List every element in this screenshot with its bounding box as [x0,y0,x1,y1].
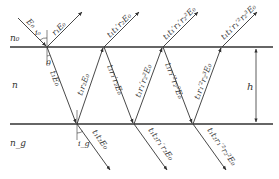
substrate-angle-label: i_g [78,139,90,148]
refraction-angle-label: θ [46,59,51,68]
incidence-angle-arc [40,38,47,40]
transmitted-label-1: t₁t₂E₀ [90,128,110,152]
thickness-label: h [247,81,253,92]
incidence-angle-label: i₀ [35,28,42,37]
medium-label-top: n₀ [10,33,20,43]
internal-ray-1 [47,47,76,123]
internal-label-5: t₁r₁′²r₂²E₀ [163,61,185,100]
internal-label-4: t₁r₁′r₂²E₀ [133,62,154,98]
transmitted-label-2: t₁t₂r₁′r₂E₀ [146,126,175,163]
internal-label-2: t₁r₂E₀ [75,72,91,97]
reflected-label-4: t₁t₁′r₁′²r₂³E₀ [219,2,258,41]
reflected-label-2: t₁t₁′r₂E₀ [105,11,134,40]
internal-label-1: t₁E₀ [48,69,62,87]
internal-label-3: t₁r₁′r₂E₀ [105,63,125,96]
internal-label-6: t₁r₁′²r₂³E₀ [192,61,214,100]
refraction-angle-arc [47,55,50,56]
transmitted-label-3: t₁t₂r₁′²r₂²E₀ [205,126,238,168]
thin-film-diagram: h n₀ n n_g i₀ θ i_g E₀ r₁E₀ t₁t₁′r₂E₀ t₁… [0,0,279,179]
medium-label-substrate: n_g [10,138,26,149]
reflected-label-3: t₁t₁′r₁′r₂²E₀ [161,4,198,41]
medium-label-film: n [12,80,18,90]
